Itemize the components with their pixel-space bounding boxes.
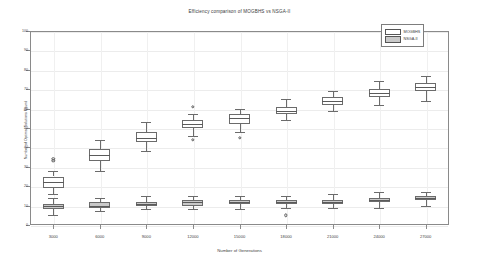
x-gridline xyxy=(334,32,335,224)
x-tick-mark xyxy=(193,225,194,229)
y-gridline xyxy=(31,148,448,149)
x-gridline xyxy=(101,32,102,224)
x-gridline xyxy=(241,32,242,224)
x-tick-mark xyxy=(53,225,54,229)
chart-legend: MOGBHS NSGA-II xyxy=(381,24,424,47)
x-tick-label: 12000 xyxy=(173,234,213,239)
chart-figure: Efficiency comparison of MOGBHS vs NSGA-… xyxy=(0,0,479,265)
legend-item-nsga2: NSGA-II xyxy=(385,36,420,42)
y-gridline xyxy=(31,110,448,111)
x-gridline xyxy=(380,32,381,224)
x-tick-mark xyxy=(379,225,380,229)
x-gridline xyxy=(427,32,428,224)
y-tick-label: 90 xyxy=(10,48,28,52)
x-tick-label: 15000 xyxy=(220,234,260,239)
legend-item-mogbhs: MOGBHS xyxy=(385,29,420,35)
x-tick-label: 3000 xyxy=(33,234,73,239)
y-tick-label: 10 xyxy=(10,204,28,208)
x-tick-label: 6000 xyxy=(80,234,120,239)
y-tick-label: 0 xyxy=(10,223,28,227)
x-tick-mark xyxy=(146,225,147,229)
y-tick-label: 100 xyxy=(10,29,28,33)
y-gridline xyxy=(31,90,448,91)
y-gridline xyxy=(31,207,448,208)
legend-label-nsga2: NSGA-II xyxy=(404,37,418,41)
y-tick-label: 40 xyxy=(10,145,28,149)
x-gridline xyxy=(147,32,148,224)
x-tick-label: 18000 xyxy=(266,234,306,239)
y-tick-label: 70 xyxy=(10,87,28,91)
y-tick-label: 60 xyxy=(10,107,28,111)
x-axis-title: Number of Generations xyxy=(0,248,479,253)
x-tick-mark xyxy=(240,225,241,229)
y-gridline xyxy=(31,71,448,72)
x-tick-label: 24000 xyxy=(359,234,399,239)
x-gridline xyxy=(194,32,195,224)
legend-label-mogbhs: MOGBHS xyxy=(404,30,421,34)
y-axis-title: Number of Optimal Solutions Found xyxy=(24,60,28,200)
plot-area xyxy=(30,31,449,225)
legend-swatch-nsga2 xyxy=(385,36,401,42)
x-gridline xyxy=(287,32,288,224)
x-tick-label: 27000 xyxy=(406,234,446,239)
x-tick-mark xyxy=(100,225,101,229)
x-tick-mark xyxy=(286,225,287,229)
y-tick-label: 50 xyxy=(10,126,28,130)
x-gridline xyxy=(54,32,55,224)
x-tick-label: 21000 xyxy=(313,234,353,239)
y-gridline xyxy=(31,187,448,188)
y-tick-label: 20 xyxy=(10,184,28,188)
x-tick-label: 9000 xyxy=(126,234,166,239)
y-tick-label: 30 xyxy=(10,165,28,169)
chart-title: Efficiency comparison of MOGBHS vs NSGA-… xyxy=(0,9,479,14)
y-tick-label: 80 xyxy=(10,68,28,72)
y-gridline xyxy=(31,51,448,52)
y-gridline xyxy=(31,168,448,169)
x-tick-mark xyxy=(426,225,427,229)
legend-swatch-mogbhs xyxy=(385,29,401,35)
y-gridline xyxy=(31,129,448,130)
x-tick-mark xyxy=(333,225,334,229)
